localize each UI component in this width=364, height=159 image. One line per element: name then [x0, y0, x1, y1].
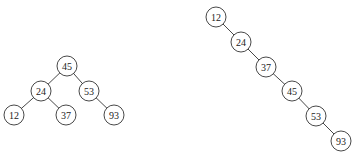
- tree-node-12: 12: [206, 7, 226, 27]
- tree-node-24: 24: [31, 81, 51, 101]
- tree-node-93: 93: [331, 131, 351, 151]
- node-label: 53: [84, 86, 94, 97]
- tree-node-37: 37: [256, 57, 276, 77]
- node-label: 12: [211, 12, 221, 23]
- tree-node-53: 53: [306, 106, 326, 126]
- tree-node-93: 93: [104, 105, 124, 125]
- node-label: 24: [36, 86, 46, 97]
- tree-node-45: 45: [282, 81, 302, 101]
- node-label: 93: [109, 110, 119, 121]
- balanced-bst: 452453123793: [4, 56, 124, 125]
- tree-node-24: 24: [231, 32, 251, 52]
- nodes-layer: 452453123793122437455393: [4, 7, 351, 151]
- node-label: 24: [236, 37, 246, 48]
- tree-diagram-canvas: 452453123793122437455393: [0, 0, 364, 159]
- node-label: 53: [311, 111, 321, 122]
- node-label: 45: [287, 86, 297, 97]
- tree-node-12: 12: [4, 105, 24, 125]
- node-label: 93: [336, 136, 346, 147]
- node-label: 37: [61, 110, 71, 121]
- node-label: 45: [62, 61, 72, 72]
- tree-node-37: 37: [56, 105, 76, 125]
- node-label: 37: [261, 62, 271, 73]
- tree-node-45: 45: [57, 56, 77, 76]
- tree-node-53: 53: [79, 81, 99, 101]
- node-label: 12: [9, 110, 19, 121]
